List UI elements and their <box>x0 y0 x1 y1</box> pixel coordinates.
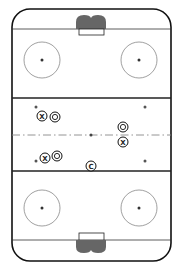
faceoff-dot-bottom-right <box>138 207 141 210</box>
coach-c: C <box>86 161 96 171</box>
hockey-rink-diagram: X X X C <box>0 0 178 270</box>
player-o <box>50 112 60 122</box>
neutral-dot-top-left <box>35 106 38 109</box>
player-o <box>118 122 128 132</box>
svg-text:C: C <box>88 163 93 171</box>
player-x: X <box>37 111 47 121</box>
player-x: X <box>118 137 128 147</box>
neutral-dot-bottom-right <box>144 160 147 163</box>
player-x: X <box>40 153 50 163</box>
player-o <box>52 151 62 161</box>
neutral-dot-bottom-left <box>35 160 38 163</box>
neutral-dot-top-right <box>144 106 147 109</box>
svg-text:X: X <box>120 139 126 147</box>
svg-text:X: X <box>39 113 45 121</box>
bottom-goal-crease <box>79 233 104 240</box>
center-faceoff-dot <box>90 134 93 137</box>
faceoff-dot-top-right <box>138 59 141 62</box>
top-goal-crease <box>79 29 104 35</box>
faceoff-dot-bottom-left <box>41 207 44 210</box>
faceoff-dot-top-left <box>41 59 44 62</box>
svg-text:X: X <box>42 155 48 163</box>
